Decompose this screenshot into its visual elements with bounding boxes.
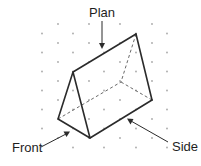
grid-dot xyxy=(103,109,105,111)
grid-dot xyxy=(72,90,74,92)
grid-dot xyxy=(166,71,168,73)
grid-dot xyxy=(41,52,43,54)
grid-dot xyxy=(88,80,90,82)
side-annotation: Side xyxy=(127,119,198,155)
plan-label: Plan xyxy=(89,5,115,20)
top-ridge-edge xyxy=(73,34,136,72)
grid-dot xyxy=(135,52,137,54)
grid-dot xyxy=(151,137,153,139)
grid-dot xyxy=(72,52,74,54)
grid-dot xyxy=(151,42,153,44)
grid-dot xyxy=(72,33,74,35)
grid-dot xyxy=(119,61,121,63)
grid-dot xyxy=(57,61,59,63)
grid-dot xyxy=(103,90,105,92)
grid-dot xyxy=(151,80,153,82)
grid-dot xyxy=(72,147,74,149)
back-slant-edge xyxy=(136,34,152,100)
grid-dot xyxy=(119,137,121,139)
grid-dot xyxy=(166,90,168,92)
grid-dot xyxy=(151,61,153,63)
plan-annotation: Plan xyxy=(89,5,115,49)
grid-dot xyxy=(41,71,43,73)
grid-dot xyxy=(41,33,43,35)
front-label: Front xyxy=(12,140,43,155)
front-annotation: Front xyxy=(12,132,70,156)
prism-isometric-diagram: Plan Front Side xyxy=(0,0,201,166)
grid-dot xyxy=(166,128,168,130)
grid-dot xyxy=(57,80,59,82)
grid-dot xyxy=(135,71,137,73)
grid-dot xyxy=(88,23,90,25)
grid-dot xyxy=(151,118,153,120)
plan-arrow-head-icon xyxy=(99,43,105,49)
grid-dot xyxy=(88,118,90,120)
grid-dot xyxy=(119,99,121,101)
grid-dot xyxy=(41,128,43,130)
bottom-right-edge xyxy=(90,100,152,138)
grid-dot xyxy=(57,99,59,101)
front-arrow-shaft xyxy=(41,134,66,147)
triangular-prism xyxy=(58,34,152,138)
grid-dot xyxy=(135,147,137,149)
grid-dot xyxy=(166,147,168,149)
grid-dot xyxy=(103,71,105,73)
grid-dot xyxy=(57,42,59,44)
grid-dot xyxy=(41,109,43,111)
grid-dot xyxy=(135,128,137,130)
grid-dot xyxy=(166,109,168,111)
grid-dot xyxy=(103,147,105,149)
grid-dot xyxy=(88,42,90,44)
grid-dot xyxy=(166,33,168,35)
side-label: Side xyxy=(172,139,198,154)
grid-dot xyxy=(166,52,168,54)
grid-dot xyxy=(119,23,121,25)
grid-dot xyxy=(151,23,153,25)
grid-dot xyxy=(41,90,43,92)
grid-dot xyxy=(57,23,59,25)
front-face-triangle xyxy=(58,72,90,138)
side-arrow-shaft xyxy=(131,121,168,142)
hidden-edge-back-base xyxy=(121,82,152,100)
